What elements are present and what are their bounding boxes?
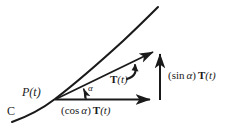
tangent-vector-figure: C P(t) α (cosα)T(t) T(t) (sinα)T(t) bbox=[0, 0, 246, 129]
horizontal-component-label: (cosα)T(t) bbox=[61, 105, 111, 116]
vector-arg: (t) bbox=[117, 73, 127, 85]
tangent-pointer-arc-head bbox=[132, 65, 139, 72]
curve-label-c: C bbox=[7, 105, 15, 117]
angle-label-alpha: α bbox=[88, 84, 93, 93]
sin-word: sin bbox=[172, 69, 185, 81]
tangent-vector-label: T(t) bbox=[110, 74, 128, 85]
vector-arg: (t) bbox=[100, 104, 110, 116]
paren-close: ) bbox=[87, 104, 91, 116]
cos-word: cos bbox=[65, 104, 80, 116]
paren-close: ) bbox=[192, 69, 196, 81]
figure-canvas bbox=[0, 0, 246, 129]
point-label-arg: (t) bbox=[29, 85, 40, 99]
vertical-component-label: (sinα)T(t) bbox=[168, 70, 216, 81]
angle-arc bbox=[84, 89, 87, 100]
vector-arg: (t) bbox=[205, 69, 215, 81]
point-label-p: P(t) bbox=[22, 86, 41, 98]
